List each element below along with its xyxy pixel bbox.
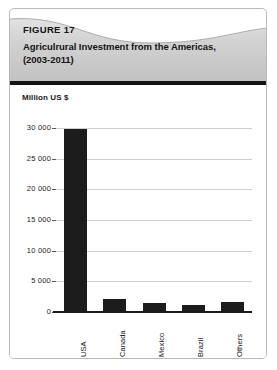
figure-title-line1: Agriculrural Investment from the America… — [23, 41, 216, 52]
chart-area: Million US $ 05 00010 00015 00020 00025 … — [10, 85, 267, 359]
figure-number-label: FIGURE 17 — [23, 24, 259, 36]
y-tick-label: 25 000 — [27, 154, 51, 163]
y-tick-label: 20 000 — [27, 184, 51, 193]
y-tick-label: 10 000 — [27, 246, 51, 255]
y-tick-label: 0 — [47, 307, 51, 316]
y-tick-mark — [52, 251, 56, 252]
y-tick-label: 15 000 — [27, 215, 51, 224]
y-axis-unit-label: Million US $ — [22, 93, 69, 102]
figure-header-band: FIGURE 17 Agriculrural Investment from t… — [10, 9, 267, 81]
figure-container: FIGURE 17 Agriculrural Investment from t… — [9, 8, 267, 359]
plot-area — [56, 128, 252, 312]
y-tick-mark — [52, 281, 56, 282]
y-tick-mark — [52, 189, 56, 190]
y-axis-tick-labels: 05 00010 00015 00020 00025 00030 000 — [10, 128, 51, 312]
x-tick-label-mexico: Mexico — [157, 333, 166, 357]
x-axis-line — [53, 311, 252, 313]
x-tick-label-others: Others — [235, 334, 244, 357]
y-tick-label: 30 000 — [27, 123, 51, 132]
bar-usa — [64, 129, 87, 312]
y-tick-label: 5 000 — [31, 276, 51, 285]
x-tick-label-canada: Canada — [118, 330, 127, 357]
figure-title: Agriculrural Investment from the America… — [23, 40, 259, 66]
x-axis-tick-labels: USACanadaMexicoBrazilOthers — [56, 315, 252, 359]
y-tick-mark — [52, 220, 56, 221]
y-tick-mark — [52, 128, 56, 129]
x-tick-label-brazil: Brazil — [196, 338, 205, 357]
figure-title-line2: (2003-2011) — [23, 54, 74, 65]
header-text-block: FIGURE 17 Agriculrural Investment from t… — [23, 24, 259, 66]
y-tick-mark — [52, 159, 56, 160]
x-tick-label-usa: USA — [79, 341, 88, 357]
